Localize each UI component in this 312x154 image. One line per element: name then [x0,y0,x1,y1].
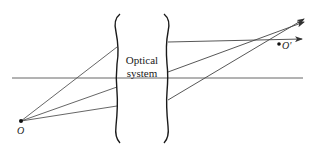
incoming-rays [21,47,117,121]
left-brace [115,14,120,143]
system-label-line2: system [127,67,158,79]
system-label-line1: Optical [126,54,158,66]
image-point [277,42,281,46]
outgoing-rays [168,19,304,100]
object-point [19,119,23,123]
incoming-ray-1 [21,47,117,121]
incoming-ray-2 [21,87,117,121]
image-point-label: O' [282,40,292,51]
right-brace [164,14,169,143]
object-point-label: O [17,125,24,136]
outgoing-ray-3 [168,19,304,100]
optical-system-diagram: Optical system O O' [0,0,312,154]
incoming-ray-3 [21,106,117,121]
